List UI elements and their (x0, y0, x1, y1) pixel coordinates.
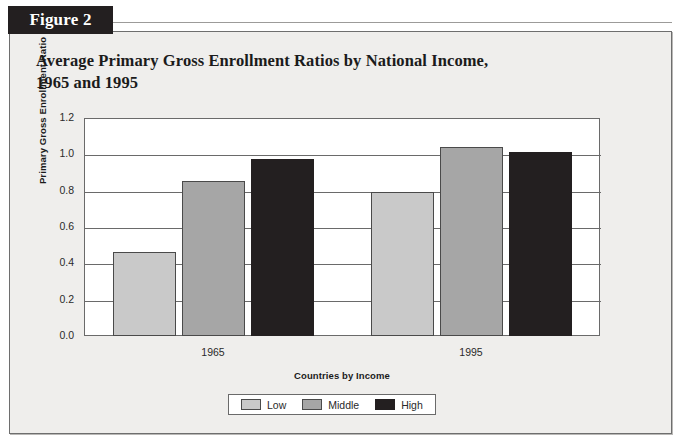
y-axis-tick-label: 0.6 (0, 220, 74, 232)
tab-rule-divider (113, 22, 672, 23)
y-axis-tick-label: 0.2 (0, 293, 74, 305)
figure-number-label: Figure 2 (8, 6, 113, 34)
y-axis-tick-label: 1.2 (0, 111, 74, 123)
bar-high-1965 (251, 159, 314, 336)
chart-title: Average Primary Gross Enrollment Ratios … (36, 50, 636, 94)
x-axis-tick-label-1965: 1965 (173, 346, 253, 358)
legend-swatch-high-icon (375, 399, 395, 410)
y-axis-tick-labels: 0.00.20.40.60.81.01.2 (0, 118, 78, 336)
legend-swatch-low-icon (241, 399, 261, 410)
bar-high-1995 (509, 152, 572, 336)
legend-swatch-middle-icon (302, 399, 322, 410)
bar-low-1965 (113, 252, 176, 336)
y-axis-tick-label: 1.0 (0, 147, 74, 159)
chart-title-line-1: Average Primary Gross Enrollment Ratios … (36, 51, 488, 70)
x-axis-tick-label-1995: 1995 (431, 346, 511, 358)
legend-item-low[interactable]: Low (241, 399, 286, 411)
legend-label: High (401, 399, 423, 411)
bar-middle-1965 (182, 181, 245, 336)
legend-item-high[interactable]: High (375, 399, 423, 411)
bar-low-1995 (371, 192, 434, 336)
y-axis-tick-label: 0.4 (0, 256, 74, 268)
legend-item-middle[interactable]: Middle (302, 399, 359, 411)
legend-label: Low (267, 399, 286, 411)
figure-container: Figure 2 Average Primary Gross Enrollmen… (0, 0, 680, 442)
bar-middle-1995 (440, 147, 503, 336)
plot-area-wrapper (84, 118, 600, 336)
figure-number-tab: Figure 2 (8, 6, 113, 34)
chart-title-line-2: 1965 and 1995 (36, 73, 138, 92)
y-axis-tick-label: 0.0 (0, 329, 74, 341)
y-axis-tick-label: 0.8 (0, 184, 74, 196)
x-axis-title: Countries by Income (84, 370, 600, 381)
legend-label: Middle (328, 399, 359, 411)
chart-legend: LowMiddleHigh (228, 394, 436, 415)
